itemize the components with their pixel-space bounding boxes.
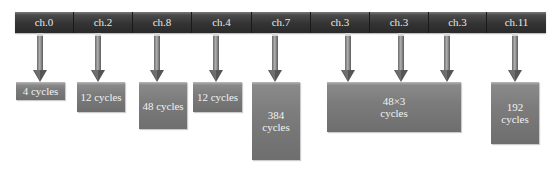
down-arrow-icon	[340, 33, 356, 82]
channel-segment: ch.7	[252, 12, 311, 33]
cycles-label: 192 cycles	[493, 101, 537, 125]
channel-segment: ch.8	[133, 12, 192, 33]
channel-segment: ch.3	[370, 12, 429, 33]
down-arrow-icon	[393, 33, 409, 82]
cycles-label: 12 cycles	[197, 91, 238, 103]
channel-segment: ch.3	[429, 12, 487, 33]
cycles-label: 4 cycles	[23, 85, 59, 97]
cycles-box: 12 cycles	[77, 82, 125, 112]
cycles-label: 48×3 cycles	[380, 95, 407, 119]
cycles-box: 48×3 cycles	[327, 82, 461, 132]
down-arrow-icon	[439, 33, 455, 82]
cycles-label: 384 cycles	[254, 109, 298, 133]
down-arrow-icon	[208, 33, 224, 82]
channel-header-bar: ch.0ch.2ch.8ch.4ch.7ch.3ch.3ch.3ch.11	[15, 12, 546, 33]
down-arrow-icon	[90, 33, 106, 82]
down-arrow-icon	[32, 33, 48, 82]
cycles-label: 48 cycles	[142, 100, 183, 112]
cycles-box: 48 cycles	[139, 82, 187, 129]
channel-segment: ch.3	[311, 12, 370, 33]
channel-segment: ch.4	[192, 12, 252, 33]
down-arrow-icon	[267, 33, 283, 82]
channel-segment: ch.2	[74, 12, 133, 33]
cycles-box: 4 cycles	[16, 82, 65, 100]
channel-segment: ch.11	[487, 12, 546, 33]
channel-segment: ch.0	[15, 12, 74, 33]
down-arrow-icon	[507, 33, 523, 82]
cycles-box: 384 cycles	[252, 82, 300, 160]
cycles-label: 12 cycles	[80, 91, 121, 103]
cycles-box: 192 cycles	[491, 82, 539, 144]
down-arrow-icon	[149, 33, 165, 82]
cycles-box: 12 cycles	[193, 82, 242, 112]
